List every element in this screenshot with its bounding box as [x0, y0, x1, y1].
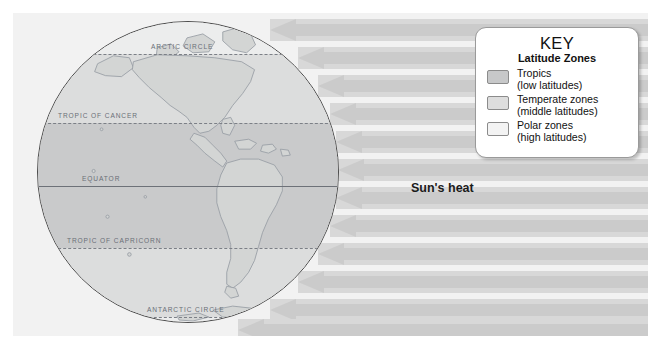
arctic-circle-line	[38, 54, 338, 55]
arctic-circle-label: ARCTIC CIRCLE	[151, 43, 213, 50]
key-entry-temperate: Temperate zones (middle latitudes)	[476, 94, 638, 117]
key-entry-temperate-label: Temperate zones	[517, 93, 598, 105]
key-entry-tropics-sub: (low latitudes)	[517, 80, 582, 92]
tropic-of-cancer-label: TROPIC OF CANCER	[58, 112, 138, 119]
key-entry-temperate-text: Temperate zones (middle latitudes)	[517, 94, 598, 117]
sun-ray-arrow	[298, 271, 648, 293]
key-subtitle: Latitude Zones	[476, 52, 638, 64]
sun-ray-arrow	[330, 215, 648, 237]
key-entry-temperate-sub: (middle latitudes)	[517, 106, 598, 118]
tropic-of-capricorn-line	[38, 248, 338, 249]
sun-ray-arrow	[338, 159, 648, 181]
tropics-swatch-icon	[487, 70, 509, 84]
key-title: KEY	[476, 34, 638, 53]
tropic-of-capricorn-label: TROPIC OF CAPRICORN	[67, 237, 161, 244]
key-entry-polar-label: Polar zones	[517, 119, 573, 131]
key-entry-tropics: Tropics (low latitudes)	[476, 68, 638, 91]
antarctic-circle-label: ANTARCTIC CIRCLE	[147, 306, 225, 313]
tropic-of-cancer-line	[38, 123, 338, 124]
sun-ray-arrow	[336, 187, 648, 209]
suns-heat-label: Sun's heat	[411, 181, 474, 195]
temperate-swatch-icon	[487, 96, 509, 110]
antarctic-circle-line	[38, 317, 338, 318]
diagram-plate: ARCTIC CIRCLE TROPIC OF CANCER EQUATOR T…	[13, 13, 648, 336]
globe: ARCTIC CIRCLE TROPIC OF CANCER EQUATOR T…	[37, 21, 339, 323]
key-entry-tropics-label: Tropics	[517, 67, 551, 79]
key-legend: KEY Latitude Zones Tropics (low latitude…	[475, 27, 639, 158]
diagram-canvas: ARCTIC CIRCLE TROPIC OF CANCER EQUATOR T…	[0, 0, 663, 349]
key-entry-polar-text: Polar zones (high latitudes)	[517, 120, 587, 143]
key-entry-tropics-text: Tropics (low latitudes)	[517, 68, 582, 91]
globe-sphere	[37, 21, 339, 323]
polar-swatch-icon	[487, 122, 509, 136]
equator-line	[38, 186, 338, 187]
equator-label: EQUATOR	[82, 175, 120, 182]
key-entry-polar: Polar zones (high latitudes)	[476, 120, 638, 143]
sun-ray-arrow	[318, 243, 648, 265]
key-entry-polar-sub: (high latitudes)	[517, 132, 587, 144]
continents	[38, 22, 338, 322]
